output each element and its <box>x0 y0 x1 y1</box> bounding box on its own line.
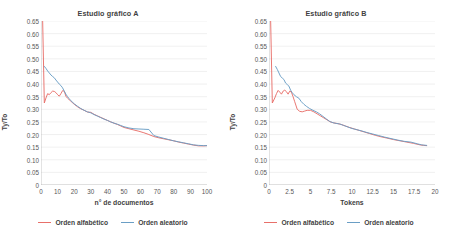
legend-swatch-alfabetico-a <box>38 222 51 223</box>
x-tick-label: 0 <box>39 188 43 195</box>
chart-panel-b: Estudio gráfico B Ty/To 00.050.100.150.2… <box>226 0 452 243</box>
x-tick-label: 15 <box>390 188 397 195</box>
legend-item-aleatorio-b: Orden aleatorio <box>347 219 413 226</box>
y-tick-label: 0.65 <box>255 18 267 25</box>
x-tick-label: 10 <box>348 188 355 195</box>
x-tick-label: 50 <box>120 188 127 195</box>
series-line <box>276 66 427 145</box>
x-tick-label: 30 <box>87 188 94 195</box>
x-tick-label: 2.5 <box>285 188 294 195</box>
y-tick-label: 0.05 <box>255 169 267 176</box>
plot-area-b <box>269 21 435 185</box>
legend-a: Orden alfabético Orden aleatorio <box>0 219 226 226</box>
y-tick-label: 0.05 <box>27 169 39 176</box>
x-axis-label-a: n° de documentos <box>41 199 207 206</box>
y-axis-label-b: Ty/To <box>229 113 236 130</box>
y-tick-label: 0.40 <box>255 81 267 88</box>
y-tick-label: 0.40 <box>27 81 39 88</box>
y-axis-ticks-b: 00.050.100.150.200.250.300.350.400.450.5… <box>242 21 267 185</box>
x-tick-label: 40 <box>104 188 111 195</box>
x-tick-label: 5 <box>309 188 313 195</box>
y-tick-label: 0.10 <box>27 156 39 163</box>
plot-area-a <box>41 21 207 185</box>
x-tick-label: 10 <box>54 188 61 195</box>
x-tick-label: 17.5 <box>408 188 420 195</box>
y-tick-label: 0.10 <box>255 156 267 163</box>
x-tick-label: 90 <box>187 188 194 195</box>
legend-label-aleatorio-b: Orden aleatorio <box>364 219 413 226</box>
x-tick-label: 0 <box>267 188 271 195</box>
chart-board: Estudio gráfico A Ty/To 00.050.100.150.2… <box>0 0 452 243</box>
y-axis-ticks-a: 00.050.100.150.200.250.300.350.400.450.5… <box>14 21 39 185</box>
x-tick-label: 20 <box>431 188 438 195</box>
legend-label-alfabetico-b: Orden alfabético <box>281 219 334 226</box>
y-tick-label: 0.50 <box>255 55 267 62</box>
legend-item-aleatorio-a: Orden aleatorio <box>121 219 187 226</box>
y-tick-label: 0.15 <box>27 144 39 151</box>
x-tick-label: 7.5 <box>327 188 336 195</box>
y-tick-label: 0.45 <box>255 68 267 75</box>
y-axis-label-a: Ty/To <box>1 113 8 130</box>
x-axis-label-b: Tokens <box>269 199 435 206</box>
x-tick-label: 12.5 <box>367 188 379 195</box>
series-line <box>44 66 207 145</box>
legend-swatch-alfabetico-b <box>264 222 277 223</box>
chart-canvas-b <box>269 21 435 185</box>
y-tick-label: 0.35 <box>255 93 267 100</box>
x-tick-label: 100 <box>202 188 213 195</box>
y-tick-label: 0.60 <box>255 30 267 37</box>
legend-item-alfabetico-b: Orden alfabético <box>264 219 334 226</box>
x-tick-label: 20 <box>71 188 78 195</box>
x-tick-label: 60 <box>137 188 144 195</box>
legend-swatch-aleatorio-b <box>347 222 360 223</box>
y-tick-label: 0.30 <box>27 106 39 113</box>
chart-canvas-a <box>41 21 207 185</box>
legend-label-aleatorio-a: Orden aleatorio <box>138 219 187 226</box>
legend-item-alfabetico-a: Orden alfabético <box>38 219 108 226</box>
y-tick-label: 0.20 <box>27 131 39 138</box>
y-tick-label: 0.55 <box>255 43 267 50</box>
y-tick-label: 0.65 <box>27 18 39 25</box>
y-tick-label: 0.50 <box>27 55 39 62</box>
legend-label-alfabetico-a: Orden alfabético <box>55 219 108 226</box>
y-tick-label: 0.60 <box>27 30 39 37</box>
y-tick-label: 0.55 <box>27 43 39 50</box>
legend-swatch-aleatorio-a <box>121 222 134 223</box>
y-tick-label: 0.15 <box>255 144 267 151</box>
y-tick-label: 0.25 <box>27 118 39 125</box>
x-tick-label: 80 <box>170 188 177 195</box>
y-tick-label: 0.45 <box>27 68 39 75</box>
chart-panel-a: Estudio gráfico A Ty/To 00.050.100.150.2… <box>0 0 226 243</box>
y-tick-label: 0.25 <box>255 118 267 125</box>
legend-b: Orden alfabético Orden aleatorio <box>226 219 452 226</box>
y-tick-label: 0.35 <box>27 93 39 100</box>
y-tick-label: 0.30 <box>255 106 267 113</box>
x-tick-label: 70 <box>154 188 161 195</box>
y-tick-label: 0.20 <box>255 131 267 138</box>
